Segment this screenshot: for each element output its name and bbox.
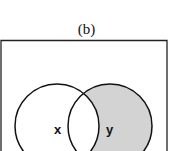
shaded-region-y-only (0, 0, 173, 151)
set-x-label: x (54, 122, 62, 137)
venn-diagram: x y (0, 0, 173, 151)
set-y-label: y (106, 122, 114, 137)
